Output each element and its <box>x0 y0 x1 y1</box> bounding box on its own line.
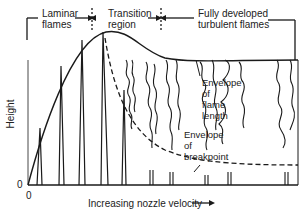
svg-text:Transition: Transition <box>108 8 152 19</box>
flame-regime-diagram: Laminar flames Transition region Fully d… <box>0 0 307 215</box>
arrow-left-icon <box>90 15 96 21</box>
svg-text:Envelope: Envelope <box>202 77 242 88</box>
envelope-flame-length-curve <box>28 32 298 185</box>
svg-text:of: of <box>184 140 192 151</box>
region-label-laminar: Laminar flames <box>27 8 94 40</box>
annotation-flame-length: Envelope of flame length <box>196 60 242 121</box>
annotation-breakpoint: Envelope of breakpoint <box>184 129 229 172</box>
svg-text:breakpoint: breakpoint <box>184 151 229 162</box>
x-axis-label: Increasing nozzle velocity <box>88 198 202 209</box>
svg-text:Fully developed: Fully developed <box>198 8 268 19</box>
svg-text:Laminar: Laminar <box>42 8 79 19</box>
y-axis-label: Height <box>5 99 16 128</box>
svg-text:length: length <box>202 110 228 121</box>
svg-text:of: of <box>202 88 210 99</box>
region-label-turbulent: Fully developed turbulent flames <box>160 8 295 60</box>
svg-text:flame: flame <box>202 99 225 110</box>
region-label-transition: Transition region <box>90 8 162 30</box>
svg-text:region: region <box>108 19 136 30</box>
svg-text:flames: flames <box>42 19 71 30</box>
laminar-flames <box>37 32 126 185</box>
x-origin-label: 0 <box>26 190 32 201</box>
y-origin-label: 0 <box>17 179 23 190</box>
svg-text:Envelope: Envelope <box>184 129 224 140</box>
arrow-right-icon <box>209 200 215 206</box>
svg-text:turbulent flames: turbulent flames <box>198 19 269 30</box>
